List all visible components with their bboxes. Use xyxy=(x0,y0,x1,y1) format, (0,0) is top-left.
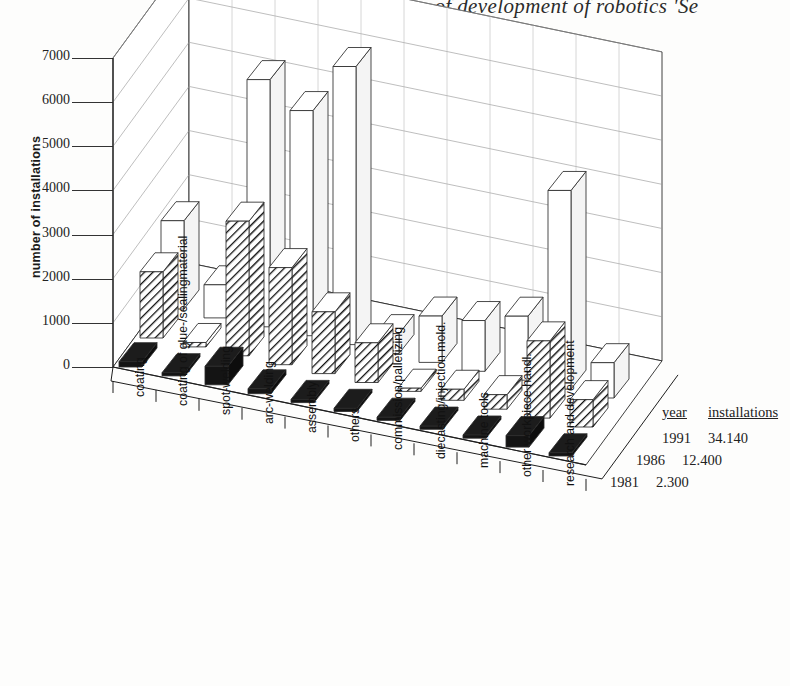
category-label-7: diecasting/injection mold. xyxy=(434,322,448,459)
legend-installations: 2.300 xyxy=(656,474,689,491)
category-label-3: arc-welding xyxy=(262,361,276,424)
legend-year: 1986 xyxy=(636,452,665,469)
bar xyxy=(269,249,307,365)
category-label-5: others xyxy=(348,407,362,441)
category-label-8: machine tools xyxy=(477,392,491,468)
bar xyxy=(226,202,264,356)
legend: year installations 199134.140198612.4001… xyxy=(660,404,790,424)
category-label-9: other workpiece handl. xyxy=(520,353,534,477)
category-label-2: spot-welding xyxy=(219,346,233,415)
bar xyxy=(140,253,178,338)
category-label-10: research and development xyxy=(563,340,577,486)
legend-year: 1981 xyxy=(610,474,639,491)
category-label-4: assembly xyxy=(305,381,319,433)
bar xyxy=(312,293,350,374)
legend-header-installations: installations xyxy=(708,404,778,421)
legend-header-year: year xyxy=(662,404,687,421)
category-label-6: commission/palletizing xyxy=(391,327,405,450)
legend-installations: 12.400 xyxy=(682,452,722,469)
category-label-1: coating of glue-/sealingmaterial xyxy=(176,236,190,406)
legend-year: 1991 xyxy=(662,430,691,447)
category-label-0: coating xyxy=(133,357,147,397)
legend-installations: 34.140 xyxy=(708,430,748,447)
legend-header: year installations xyxy=(660,404,790,424)
